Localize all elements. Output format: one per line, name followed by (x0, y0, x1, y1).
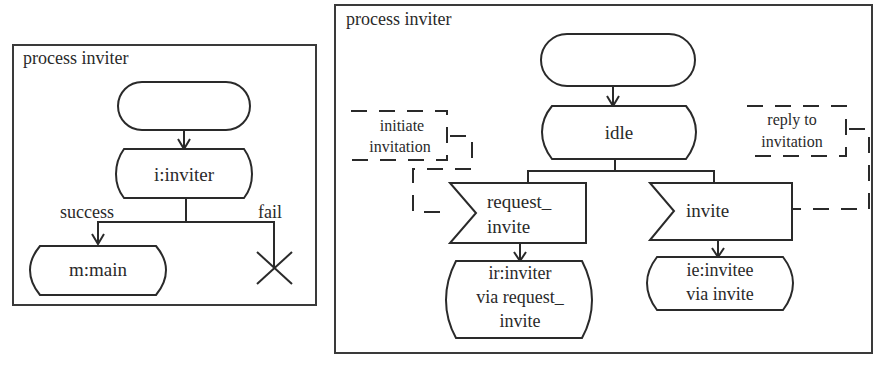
diagram-canvas: process inviter i:inviter success fail m… (0, 0, 894, 376)
right-state-ir-inviter-line3: invite (500, 311, 541, 331)
right-input-invite-label: invite (686, 200, 729, 221)
right-input-request-invite-line1: request_ (487, 191, 552, 212)
left-start-node (118, 82, 250, 130)
comment-reply-line2: invitation (761, 133, 822, 150)
right-state-idle-label: idle (605, 122, 634, 143)
right-branch-line (528, 171, 714, 183)
right-state-ie-invitee-line2: via invite (686, 284, 753, 304)
left-branch-fail-label: fail (258, 202, 282, 222)
left-state-m-main-label: m:main (69, 259, 128, 280)
left-state-i-inviter-label: i:inviter (154, 164, 215, 185)
left-branch-success-label: success (60, 202, 114, 222)
right-frame-title: process inviter (346, 9, 451, 29)
right-input-request-invite-line2: invite (487, 216, 530, 237)
right-state-ir-inviter-line2: via request_ (476, 287, 564, 307)
right-process-frame: process inviter idle request_ invite inv… (335, 5, 872, 353)
left-process-frame: process inviter i:inviter success fail m… (13, 45, 316, 305)
comment-reply-line1: reply to (767, 111, 816, 129)
comment-initiate-line1: initiate (380, 117, 424, 134)
comment-initiate-invitation: initiate invitation (351, 111, 472, 212)
right-start-node (541, 34, 695, 86)
comment-initiate-line2: invitation (369, 138, 430, 155)
left-frame-title: process inviter (23, 48, 128, 68)
right-state-ie-invitee-line1: ie:invitee (687, 260, 754, 280)
right-state-ir-inviter-line1: ir:inviter (489, 263, 552, 283)
